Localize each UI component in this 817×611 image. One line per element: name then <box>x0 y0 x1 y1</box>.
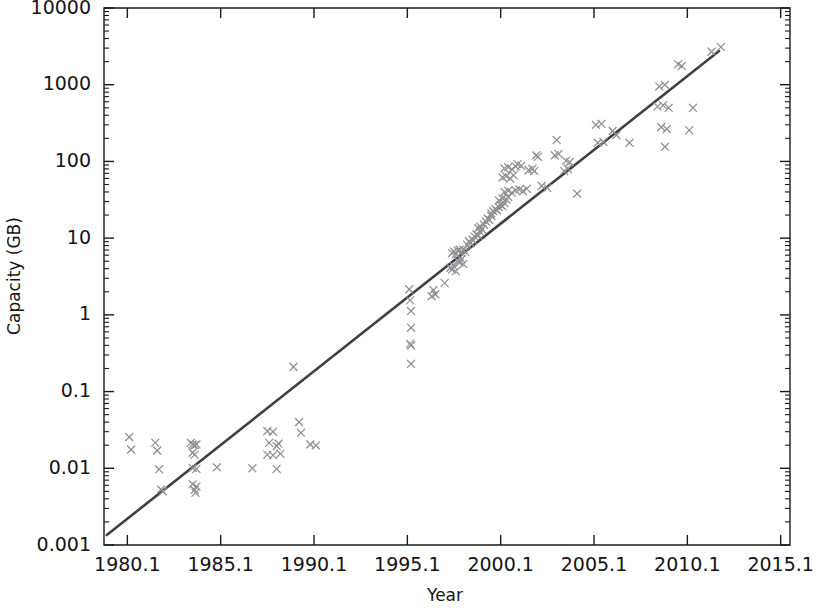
y-axis-title: Capacity (GB) <box>4 217 24 335</box>
x-tick-label: 1990.1 <box>281 553 347 575</box>
x-tick-label: 1980.1 <box>94 553 160 575</box>
y-tick-label: 0.1 <box>61 379 91 401</box>
y-tick-label: 1000 <box>43 72 91 94</box>
x-tick-label: 1995.1 <box>374 553 440 575</box>
y-tick-label: 1 <box>79 302 91 324</box>
x-tick-label: 2010.1 <box>654 553 720 575</box>
y-tick-label: 100 <box>55 149 91 171</box>
y-tick-label: 10 <box>67 226 91 248</box>
chart-figure: 1000010001001010.10.010.001 1980.11985.1… <box>0 0 817 611</box>
x-tick-label: 2000.1 <box>467 553 533 575</box>
x-tick-label: 2005.1 <box>561 553 627 575</box>
y-tick-label: 10000 <box>31 0 91 18</box>
capacity-vs-year-scatter-chart: 1000010001001010.10.010.001 1980.11985.1… <box>0 0 817 611</box>
y-tick-label: 0.01 <box>49 456 91 478</box>
chart-background <box>0 0 817 611</box>
x-axis-title: Year <box>426 585 463 605</box>
x-tick-label: 1985.1 <box>187 553 253 575</box>
y-tick-label: 0.001 <box>37 533 91 555</box>
x-tick-label: 2015.1 <box>747 553 813 575</box>
